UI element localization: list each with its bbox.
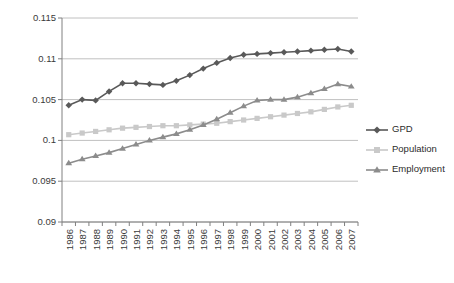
data-point-marker bbox=[133, 125, 138, 130]
x-tick-label: 2006 bbox=[333, 229, 344, 250]
x-tick-label: 2001 bbox=[266, 229, 277, 250]
chart-legend: GPDPopulationEmployment bbox=[366, 118, 445, 178]
x-tick-label: 1987 bbox=[77, 229, 88, 250]
series-line bbox=[69, 49, 352, 105]
data-point-marker bbox=[187, 72, 193, 78]
data-point-marker bbox=[214, 121, 219, 126]
data-point-marker bbox=[174, 123, 179, 128]
x-tick-label: 1988 bbox=[91, 229, 102, 250]
y-tick-label: 0.1 bbox=[12, 134, 56, 145]
data-point-marker bbox=[241, 117, 246, 122]
legend-swatch-square-icon bbox=[366, 142, 388, 154]
y-tick-label: 0.095 bbox=[12, 175, 56, 186]
x-tick-label: 2005 bbox=[319, 229, 330, 250]
data-point-marker bbox=[267, 50, 273, 56]
line-chart: 0.1150.110.1050.10.0950.09 1986198719881… bbox=[0, 0, 454, 283]
y-tick-label: 0.11 bbox=[12, 53, 56, 64]
x-tick-label: 2004 bbox=[306, 229, 317, 250]
data-point-marker bbox=[160, 82, 166, 88]
legend-label: Employment bbox=[392, 163, 445, 174]
data-point-marker bbox=[295, 111, 300, 116]
x-tick-label: 1992 bbox=[144, 229, 155, 250]
x-tick-label: 1994 bbox=[171, 229, 182, 250]
x-tick-label: 1991 bbox=[131, 229, 142, 250]
data-point-marker bbox=[79, 96, 85, 102]
data-point-marker bbox=[335, 104, 340, 109]
legend-swatch-diamond-icon bbox=[366, 122, 388, 134]
y-tick-label: 0.105 bbox=[12, 94, 56, 105]
data-point-marker bbox=[66, 132, 71, 137]
data-point-marker bbox=[133, 80, 139, 86]
x-tick-label: 1989 bbox=[104, 229, 115, 250]
legend-item-gpd[interactable]: GPD bbox=[366, 118, 445, 138]
data-point-marker bbox=[80, 130, 85, 135]
x-tick-label: 1997 bbox=[212, 229, 223, 250]
data-point-marker bbox=[146, 81, 152, 87]
data-point-marker bbox=[308, 109, 313, 114]
y-tick-label: 0.115 bbox=[12, 12, 56, 23]
data-point-marker bbox=[227, 55, 233, 61]
data-point-marker bbox=[106, 127, 111, 132]
data-point-marker bbox=[373, 126, 380, 133]
data-point-marker bbox=[322, 107, 327, 112]
x-tick-label: 1995 bbox=[185, 229, 196, 250]
data-point-marker bbox=[173, 78, 179, 84]
data-point-marker bbox=[200, 65, 206, 71]
x-tick-label: 1986 bbox=[64, 229, 75, 250]
legend-item-employment[interactable]: Employment bbox=[366, 158, 445, 178]
data-point-marker bbox=[348, 48, 354, 54]
y-tick-label: 0.09 bbox=[12, 216, 56, 227]
data-point-marker bbox=[268, 114, 273, 119]
data-point-marker bbox=[147, 124, 152, 129]
legend-label: GPD bbox=[392, 123, 413, 134]
data-point-marker bbox=[281, 49, 287, 55]
x-tick-label: 2007 bbox=[346, 229, 357, 250]
data-point-marker bbox=[321, 47, 327, 53]
x-tick-label: 1998 bbox=[225, 229, 236, 250]
data-point-marker bbox=[228, 119, 233, 124]
data-point-marker bbox=[66, 102, 72, 108]
x-tick-label: 1996 bbox=[198, 229, 209, 250]
x-tick-label: 1993 bbox=[158, 229, 169, 250]
x-tick-label: 1990 bbox=[118, 229, 129, 250]
x-tick-label: 1999 bbox=[239, 229, 250, 250]
data-point-marker bbox=[93, 129, 98, 134]
data-point-marker bbox=[308, 47, 314, 53]
data-point-marker bbox=[281, 113, 286, 118]
legend-swatch-triangle-icon bbox=[366, 162, 388, 174]
data-point-marker bbox=[160, 123, 165, 128]
data-point-marker bbox=[335, 46, 341, 52]
data-point-marker bbox=[374, 147, 380, 153]
data-point-marker bbox=[334, 81, 341, 86]
data-point-marker bbox=[349, 103, 354, 108]
x-tick-label: 2002 bbox=[279, 229, 290, 250]
series-population bbox=[66, 103, 354, 138]
data-point-marker bbox=[294, 48, 300, 54]
data-point-marker bbox=[214, 60, 220, 66]
legend-label: Population bbox=[392, 143, 437, 154]
x-tick-label: 2003 bbox=[292, 229, 303, 250]
legend-item-population[interactable]: Population bbox=[366, 138, 445, 158]
x-tick-label: 2000 bbox=[252, 229, 263, 250]
data-point-marker bbox=[254, 51, 260, 57]
data-point-marker bbox=[240, 52, 246, 58]
data-point-marker bbox=[254, 116, 259, 121]
data-point-marker bbox=[120, 126, 125, 131]
